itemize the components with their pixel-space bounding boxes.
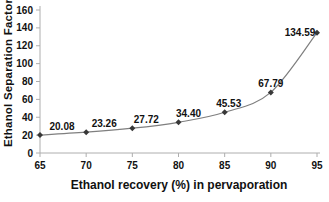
- data-point-label: 134.59: [285, 27, 316, 38]
- y-tick-label: 40: [22, 112, 34, 123]
- data-point-marker: [83, 129, 89, 135]
- data-point-label: 34.40: [176, 108, 201, 119]
- data-point-label: 20.08: [49, 121, 74, 132]
- data-point-marker: [129, 125, 135, 131]
- y-tick-label: 20: [22, 130, 34, 141]
- x-tick-label: 85: [219, 160, 231, 171]
- y-tick-label: 160: [16, 5, 33, 16]
- y-tick-label: 60: [22, 94, 34, 105]
- y-tick-label: 120: [16, 40, 33, 51]
- x-tick-label: 90: [265, 160, 277, 171]
- x-tick-label: 75: [127, 160, 139, 171]
- x-tick-label: 70: [81, 160, 93, 171]
- data-point-label: 67.79: [258, 78, 283, 89]
- data-point-label: 45.53: [216, 98, 241, 109]
- x-tick-label: 65: [34, 160, 46, 171]
- x-tick-label: 95: [311, 160, 323, 171]
- line-chart-canvas: 0204060801001201401606570758085909520.08…: [0, 0, 329, 202]
- y-tick-label: 100: [16, 58, 33, 69]
- y-tick-label: 80: [22, 76, 34, 87]
- data-point-marker: [222, 109, 228, 115]
- x-axis-title: Ethanol recovery (%) in pervaporation: [40, 178, 318, 192]
- chart-figure: Ethanol Separation Factor 02040608010012…: [0, 0, 329, 202]
- data-point-label: 23.26: [92, 118, 117, 129]
- y-tick-label: 0: [27, 148, 33, 159]
- data-point-label: 27.72: [134, 114, 159, 125]
- data-point-marker: [176, 119, 182, 125]
- x-tick-label: 80: [173, 160, 185, 171]
- data-point-marker: [37, 132, 43, 138]
- y-tick-label: 140: [16, 22, 33, 33]
